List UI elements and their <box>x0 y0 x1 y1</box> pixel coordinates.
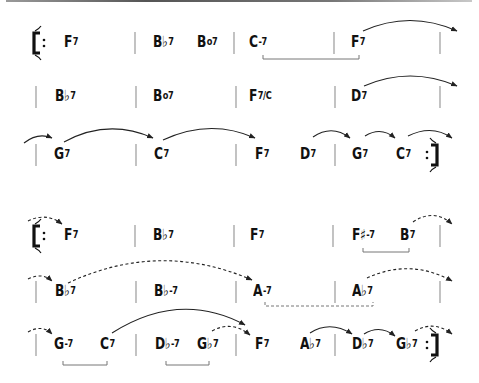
repeat-start-icon <box>34 33 40 53</box>
substitution-arrow <box>367 269 452 281</box>
resolution-arrow <box>365 131 395 138</box>
resolution-arrow <box>408 130 452 138</box>
annotation-layer <box>0 0 479 383</box>
repeat-start-icon <box>35 55 41 60</box>
resolution-arrow <box>363 21 457 32</box>
repeat-dot-icon <box>43 238 46 241</box>
ii-v-bracket <box>166 361 209 365</box>
repeat-end-icon <box>431 335 437 355</box>
repeat-dot-icon <box>426 341 429 344</box>
substitution-arrow <box>413 215 452 224</box>
repeat-dot-icon <box>426 157 429 160</box>
ii-v-bracket-dashed <box>265 302 373 306</box>
repeat-start-icon <box>35 248 41 253</box>
resolution-arrow <box>364 76 457 86</box>
repeat-end-icon <box>430 328 436 333</box>
resolution-arrow <box>112 309 245 333</box>
repeat-start-icon <box>35 26 41 31</box>
repeat-dot-icon <box>426 347 429 350</box>
substitution-arrow <box>28 328 52 334</box>
resolution-arrow <box>313 131 350 138</box>
ii-v-bracket <box>63 361 107 365</box>
substitution-arrow <box>68 261 252 283</box>
resolution-arrow <box>364 329 395 336</box>
repeat-dot-icon <box>43 45 46 48</box>
repeat-end-icon <box>430 138 436 143</box>
resolution-arrow <box>310 327 352 334</box>
substitution-arrow <box>212 326 250 335</box>
resolution-arrow <box>163 128 255 140</box>
repeat-dot-icon <box>43 39 46 42</box>
substitution-arrow <box>28 276 52 281</box>
repeat-dot-icon <box>426 151 429 154</box>
ii-v-bracket <box>263 55 359 59</box>
repeat-start-icon <box>34 226 40 246</box>
repeat-end-icon <box>431 145 437 165</box>
repeat-end-icon <box>430 167 436 172</box>
substitution-arrow <box>415 326 452 334</box>
repeat-dot-icon <box>43 232 46 235</box>
substitution-arrow <box>28 217 62 224</box>
resolution-arrow <box>24 136 52 143</box>
repeat-end-icon <box>430 357 436 362</box>
resolution-arrow <box>64 129 153 142</box>
repeat-start-icon <box>35 219 41 224</box>
ii-v-bracket <box>363 248 409 252</box>
